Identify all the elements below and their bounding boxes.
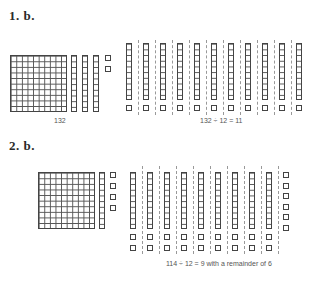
unit-cube <box>160 105 166 111</box>
ten-rod <box>266 172 272 229</box>
unit-cube <box>296 105 302 111</box>
unit-cube <box>283 193 289 199</box>
hundred-flat <box>38 172 95 229</box>
unit-cube <box>249 234 255 240</box>
group-separator <box>291 40 292 115</box>
ten-rod <box>215 172 221 229</box>
ten-rod <box>160 43 166 100</box>
unit-cube <box>283 214 289 220</box>
ten-rod <box>262 43 268 100</box>
ten-rod <box>198 172 204 229</box>
unit-cube <box>110 194 116 200</box>
ten-rod <box>177 43 183 100</box>
unit-cube <box>181 245 187 251</box>
ten-rod <box>245 43 251 100</box>
ten-rod <box>147 172 153 229</box>
unit-cube <box>266 245 272 251</box>
group-separator <box>206 40 207 115</box>
problem-1-heading: 1. b. <box>9 8 35 24</box>
unit-cube <box>181 234 187 240</box>
unit-cube <box>164 245 170 251</box>
group-separator <box>172 40 173 115</box>
group-separator <box>244 166 245 254</box>
ten-rod <box>82 55 88 112</box>
unit-cube <box>279 105 285 111</box>
unit-cube <box>110 205 116 211</box>
group-separator <box>227 166 228 254</box>
group-separator <box>223 40 224 115</box>
problem-2-heading: 2. b. <box>9 138 35 154</box>
group-separator <box>189 40 190 115</box>
ten-rod <box>211 43 217 100</box>
unit-cube <box>283 225 289 231</box>
ten-rod <box>194 43 200 100</box>
unit-cube <box>249 245 255 251</box>
unit-cube <box>147 234 153 240</box>
ten-rod <box>232 172 238 229</box>
group-separator <box>274 40 275 115</box>
ten-rod <box>143 43 149 100</box>
group-separator <box>210 166 211 254</box>
unit-cube <box>126 105 132 111</box>
unit-cube <box>130 245 136 251</box>
unit-cube <box>283 183 289 189</box>
unit-cube <box>198 234 204 240</box>
unit-cube <box>164 234 170 240</box>
group-separator <box>155 40 156 115</box>
ten-rod <box>126 43 132 100</box>
unit-cube <box>232 245 238 251</box>
ten-rod <box>279 43 285 100</box>
group-separator <box>257 40 258 115</box>
group-separator <box>240 40 241 115</box>
hundred-flat <box>10 55 67 112</box>
group-separator <box>138 40 139 115</box>
group-separator <box>159 166 160 254</box>
unit-cube <box>143 105 149 111</box>
unit-cube <box>110 183 116 189</box>
unit-cube <box>283 172 289 178</box>
unit-cube <box>194 105 200 111</box>
group-separator <box>193 166 194 254</box>
unit-cube <box>262 105 268 111</box>
group-separator <box>142 166 143 254</box>
unit-cube <box>283 204 289 210</box>
unit-cube <box>105 66 111 72</box>
unit-cube <box>130 234 136 240</box>
unit-cube <box>177 105 183 111</box>
unit-cube <box>198 245 204 251</box>
unit-cube <box>228 105 234 111</box>
problem-1-equation: 132 ÷ 12 = 11 <box>200 117 242 124</box>
unit-cube <box>266 234 272 240</box>
unit-cube <box>110 172 116 178</box>
ten-rod <box>71 55 77 112</box>
problem-2-equation: 114 ÷ 12 = 9 with a remainder of 6 <box>166 260 272 267</box>
unit-cube <box>147 245 153 251</box>
unit-cube <box>232 234 238 240</box>
ten-rod <box>249 172 255 229</box>
ten-rod <box>228 43 234 100</box>
group-separator <box>261 166 262 254</box>
unit-cube <box>105 55 111 61</box>
unit-cube <box>245 105 251 111</box>
group-separator <box>176 166 177 254</box>
ten-rod <box>99 172 105 229</box>
ten-rod <box>164 172 170 229</box>
group-separator <box>278 166 279 254</box>
ten-rod <box>181 172 187 229</box>
ten-rod <box>93 55 99 112</box>
unit-cube <box>215 234 221 240</box>
ten-rod <box>296 43 302 100</box>
ten-rod <box>130 172 136 229</box>
problem-1-dividend-label: 132 <box>54 117 66 124</box>
unit-cube <box>211 105 217 111</box>
unit-cube <box>215 245 221 251</box>
